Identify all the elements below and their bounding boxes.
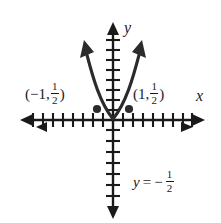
- plot-point-left: [93, 105, 101, 113]
- y-axis-up-arrow-icon: [107, 22, 119, 35]
- y-axis-label: y: [124, 20, 131, 36]
- equation-minus-sign: −: [154, 175, 162, 190]
- point-label-left: ( −1 , 1 2 ): [25, 82, 65, 107]
- equation-lhs: y: [133, 175, 140, 190]
- point-left-fraction-denominator: 2: [51, 95, 59, 106]
- point-left-fraction-numerator: 1: [51, 81, 59, 92]
- x-axis-left-arrow-icon: [20, 114, 33, 126]
- point-right-x-value: 1: [138, 87, 146, 102]
- y-axis-down-arrow-icon: [107, 206, 119, 219]
- point-label-right: ( 1 , 1 2 ): [133, 82, 164, 107]
- plot-point-right: [125, 105, 133, 113]
- point-right-fraction: 1 2: [150, 81, 158, 106]
- point-left-close-paren: ): [60, 87, 65, 102]
- equation-fraction-numerator: 1: [166, 169, 174, 180]
- point-left-x-value: −1: [30, 87, 46, 102]
- equation-fraction: 1 2: [166, 169, 174, 194]
- x-axis-label: x: [196, 88, 203, 104]
- point-right-fraction-denominator: 2: [151, 95, 159, 106]
- x-axis-right-arrow-icon: [192, 114, 205, 126]
- point-left-fraction: 1 2: [51, 81, 59, 106]
- graph-figure: y x ( −1 , 1 2 ) ( 1 , 1 2 ) y = − 1 2: [0, 0, 221, 223]
- point-right-comma: ,: [146, 87, 150, 102]
- x-axis-left-inner-arrow-icon: [36, 122, 47, 132]
- point-left-comma: ,: [46, 87, 50, 102]
- coordinate-plane: [0, 0, 221, 223]
- equation-fraction-denominator: 2: [166, 183, 174, 194]
- point-right-close-paren: ): [159, 87, 164, 102]
- directrix-equation-label: y = − 1 2: [133, 170, 175, 195]
- point-right-fraction-numerator: 1: [151, 81, 159, 92]
- equation-equals-sign: =: [143, 175, 151, 190]
